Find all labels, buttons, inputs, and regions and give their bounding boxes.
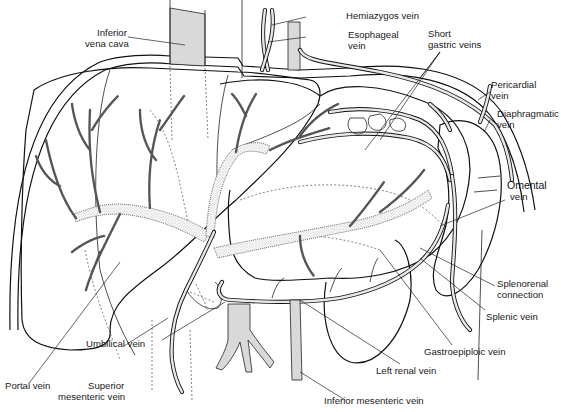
inferior-mesenteric-vein bbox=[290, 300, 302, 380]
label-pericardial-vein-2: vein bbox=[491, 90, 509, 101]
label-inferior-mesenteric-vein: Inferior mesenteric vein bbox=[324, 395, 424, 406]
splenic-vein bbox=[219, 205, 448, 302]
label-splenorenal-connection-1: Splenorenal bbox=[497, 278, 548, 289]
superior-mesenteric-vein bbox=[216, 304, 274, 372]
intrahepatic-portal-branches bbox=[36, 94, 432, 290]
portal-venous-diagram: Inferior vena cava Hemiazygos vein Esoph… bbox=[0, 0, 561, 412]
label-splenorenal-connection-2: connection bbox=[497, 289, 543, 300]
labels: Inferior vena cava Hemiazygos vein Esoph… bbox=[5, 10, 559, 406]
label-esophageal-vein-1: Esophageal bbox=[348, 29, 399, 40]
label-superior-mesenteric-vein-2: mesenteric vein bbox=[58, 391, 125, 402]
label-short-gastric-veins-2: gastric veins bbox=[428, 39, 482, 50]
label-left-renal-vein: Left renal vein bbox=[376, 365, 436, 376]
label-pericardial-vein-1: Pericardial bbox=[491, 79, 536, 90]
label-short-gastric-veins-1: Short bbox=[428, 28, 451, 39]
label-omental-vein-2: vein bbox=[510, 191, 528, 202]
label-portal-vein: Portal vein bbox=[5, 380, 50, 391]
label-omental-vein-1: Omental bbox=[507, 179, 547, 191]
label-esophageal-vein-2: vein bbox=[348, 40, 366, 51]
label-superior-mesenteric-vein-1: Superior bbox=[88, 380, 125, 391]
label-diaphragmatic-vein-1: Diaphragmatic bbox=[497, 108, 559, 119]
label-hemiazygos-vein: Hemiazygos vein bbox=[346, 10, 419, 21]
left-kidney bbox=[324, 240, 411, 363]
label-splenic-vein: Splenic vein bbox=[486, 311, 538, 322]
label-diaphragmatic-vein-2: vein bbox=[497, 119, 515, 130]
label-inferior-vena-cava-1: Inferior bbox=[97, 27, 128, 38]
label-gastroepiploic-vein: Gastroepiploic vein bbox=[424, 346, 506, 357]
pancreas bbox=[185, 282, 222, 310]
label-inferior-vena-cava-2: vena cava bbox=[85, 38, 129, 49]
label-umbilical-vein: Umbilical vein bbox=[86, 338, 145, 349]
portal-vein-trunk bbox=[172, 232, 214, 392]
